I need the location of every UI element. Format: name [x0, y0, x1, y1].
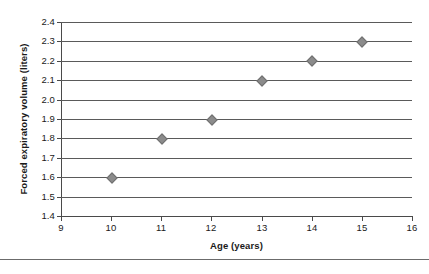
x-axis-title: Age (years) [61, 240, 412, 251]
x-tick-mark [312, 216, 313, 221]
y-tick-mark [57, 197, 61, 198]
x-tick-label: 11 [146, 222, 176, 233]
y-tick-label: 1.8 [29, 133, 55, 143]
data-point [357, 37, 366, 46]
gridline-y [61, 119, 412, 120]
x-tick-label: 13 [247, 222, 277, 233]
y-tick-mark [57, 119, 61, 120]
data-point [157, 134, 166, 143]
x-tick-mark [161, 216, 162, 221]
y-tick-label: 2.2 [29, 56, 55, 66]
data-point [307, 56, 316, 65]
y-tick-label: 1.5 [29, 192, 55, 202]
data-point [257, 76, 266, 85]
x-tick-mark [61, 216, 62, 221]
gridline-y [61, 22, 412, 23]
y-tick-mark [57, 100, 61, 101]
y-tick-label: 1.7 [29, 153, 55, 163]
data-point [107, 173, 116, 182]
y-tick-label: 1.4 [29, 211, 55, 221]
x-tick-label: 10 [96, 222, 126, 233]
y-tick-mark [57, 22, 61, 23]
x-tick-label: 9 [46, 222, 76, 233]
x-tick-mark [262, 216, 263, 221]
y-tick-mark [57, 80, 61, 81]
gridline-y [61, 100, 412, 101]
diamond-marker-icon [206, 114, 217, 125]
y-tick-mark [57, 158, 61, 159]
y-tick-mark [57, 177, 61, 178]
gridline-y [61, 216, 412, 217]
x-tick-label: 16 [397, 222, 427, 233]
y-tick-label: 2.4 [29, 17, 55, 27]
gridline-y [61, 197, 412, 198]
diamond-marker-icon [156, 133, 167, 144]
y-tick-label: 1.9 [29, 114, 55, 124]
y-tick-mark [57, 41, 61, 42]
diamond-marker-icon [307, 56, 318, 67]
x-tick-mark [111, 216, 112, 221]
y-tick-label: 2.3 [29, 36, 55, 46]
x-tick-mark [362, 216, 363, 221]
x-tick-label: 12 [196, 222, 226, 233]
x-tick-mark [412, 216, 413, 221]
diamond-marker-icon [256, 75, 267, 86]
x-tick-label: 14 [297, 222, 327, 233]
y-tick-label: 1.6 [29, 172, 55, 182]
chart-figure: Forced expiratory volume (liters) 2.42.3… [0, 0, 429, 274]
x-tick-label: 15 [347, 222, 377, 233]
bottom-divider [0, 259, 429, 260]
gridline-y [61, 80, 412, 81]
y-tick-mark [57, 61, 61, 62]
y-tick-mark [57, 138, 61, 139]
gridline-y [61, 138, 412, 139]
gridline-y [61, 158, 412, 159]
diamond-marker-icon [106, 172, 117, 183]
diamond-marker-icon [357, 36, 368, 47]
y-tick-label: 2.1 [29, 75, 55, 85]
gridline-y [61, 61, 412, 62]
data-point [207, 115, 216, 124]
y-tick-label: 2.0 [29, 95, 55, 105]
x-tick-mark [211, 216, 212, 221]
plot-area [61, 22, 412, 216]
